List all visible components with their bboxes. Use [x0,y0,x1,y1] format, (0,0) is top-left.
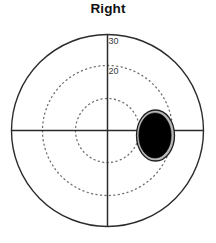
visual-field-chart: Right 30 20 [0,0,216,243]
blind-spot-scotoma [137,110,175,161]
ring-label-30: 30 [108,36,118,46]
ring-label-20: 20 [108,66,118,76]
scotoma-core [139,113,171,158]
visual-field-plot: 30 20 [0,0,216,243]
